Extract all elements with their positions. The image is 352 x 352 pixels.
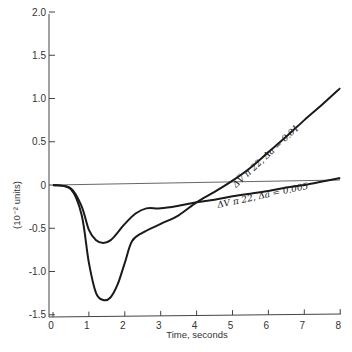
y-tick-label: 0 <box>40 180 46 191</box>
x-tick-label: 2 <box>120 320 126 331</box>
series-da-0.01-line <box>53 88 340 300</box>
x-tick-label: 0 <box>48 320 54 331</box>
annotation-da-0.005: ΔV̅ π 22, Δa = 0.005 <box>215 180 309 210</box>
x-ticks: 012345678 <box>48 309 341 331</box>
x-tick-label: 6 <box>264 320 270 331</box>
y-tick-label: 2.0 <box>32 7 46 18</box>
x-tick-label: 5 <box>228 320 234 331</box>
x-axis-title: Time, seconds <box>166 329 228 340</box>
x-tick-label: 8 <box>335 320 341 331</box>
x-tick-label: 1 <box>84 320 90 331</box>
x-axis <box>49 314 341 317</box>
annotation-da-0.01: ΔV̅ π 22, Δa = 0.01 <box>229 122 301 190</box>
axes <box>49 14 341 317</box>
y-tick-label: -0.5 <box>29 223 47 234</box>
x-tick-label: 3 <box>156 320 162 331</box>
y-tick-label: 1.0 <box>32 93 46 104</box>
y-axis-title: (10⁻² units) <box>11 181 22 229</box>
x-tick-label: 7 <box>300 320 306 331</box>
y-tick-label: 0.5 <box>32 136 46 147</box>
chart: 2.01.51.00.50-0.5-1.0-1.5 012345678 Time… <box>0 0 352 352</box>
y-tick-label: 1.5 <box>32 50 46 61</box>
y-tick-label: -1.5 <box>29 309 47 320</box>
y-ticks: 2.01.51.00.50-0.5-1.0-1.5 <box>29 7 55 321</box>
y-tick-label: -1.0 <box>29 266 47 277</box>
